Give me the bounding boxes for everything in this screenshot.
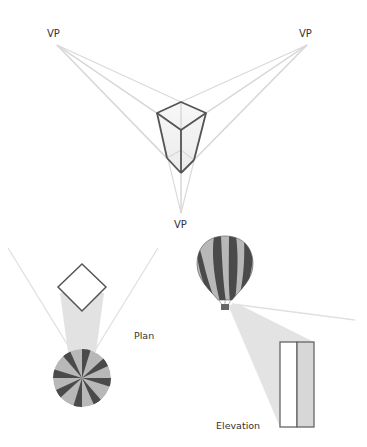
hot-air-balloon	[195, 234, 255, 310]
construction-lines-right-vp	[181, 45, 307, 173]
perspective-box	[157, 102, 206, 173]
plan-view	[8, 248, 158, 408]
vp-left-label: VP	[47, 29, 60, 39]
elevation-label: Elevation	[216, 421, 260, 431]
construction-lines-left-vp	[57, 45, 181, 173]
elevation-rect-right	[297, 342, 314, 427]
vp-right-label: VP	[299, 29, 312, 39]
elevation-view	[195, 234, 355, 427]
plan-label: Plan	[134, 331, 154, 341]
balloon-basket	[221, 304, 229, 310]
vp-bottom-label: VP	[174, 220, 187, 230]
elevation-rect-left	[280, 342, 297, 427]
parachute-top-view	[52, 348, 112, 408]
